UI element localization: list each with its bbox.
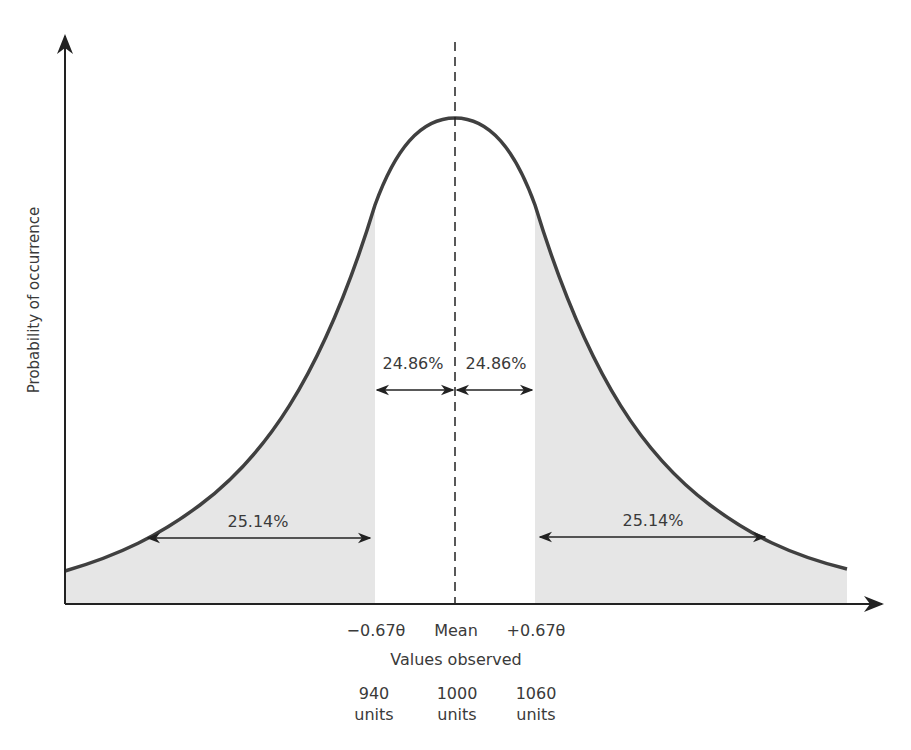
value-1060: 1060 units	[516, 683, 557, 725]
pct-right-mid: 24.86%	[465, 354, 526, 373]
value-1060-number: 1060	[516, 683, 557, 704]
value-1000-number: 1000	[437, 683, 478, 704]
pct-left-tail: 25.14%	[227, 512, 288, 531]
pct-left-mid: 24.86%	[382, 354, 443, 373]
y-axis-label: Probability of occurrence	[25, 207, 43, 393]
tick-minus-067: −0.67θ	[347, 621, 406, 640]
pct-right-tail: 25.14%	[622, 511, 683, 530]
value-1000: 1000 units	[437, 683, 478, 725]
value-940: 940 units	[354, 683, 393, 725]
normal-curve	[65, 118, 847, 571]
value-940-unit: units	[354, 704, 393, 725]
left-tail-shade	[65, 205, 375, 604]
tick-plus-067: +0.67θ	[507, 621, 566, 640]
right-tail-shade	[535, 205, 847, 604]
x-axis-label: Values observed	[390, 650, 522, 669]
value-940-number: 940	[354, 683, 393, 704]
value-1060-unit: units	[516, 704, 557, 725]
tick-mean: Mean	[434, 621, 478, 640]
value-1000-unit: units	[437, 704, 478, 725]
